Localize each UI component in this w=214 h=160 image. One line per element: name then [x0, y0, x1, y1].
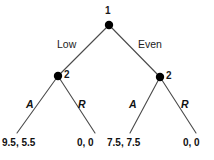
- tree-edges-layer: [0, 0, 214, 160]
- payoff-even-accept: 7.5, 7.5: [107, 138, 140, 148]
- edge-left-to-leaf-accept: [17, 76, 58, 133]
- payoff-low-reject: 0, 0: [77, 138, 94, 148]
- edge-label-left-reject: R: [78, 99, 86, 110]
- edge-right-to-leaf-reject: [160, 77, 196, 133]
- game-tree-diagram: 1 2 2 Low Even A R A R 9.5, 5.5 0, 0 7.5…: [0, 0, 214, 160]
- node-label-left-player: 2: [64, 70, 70, 80]
- edge-label-low: Low: [57, 39, 76, 50]
- edge-label-right-reject: R: [181, 99, 189, 110]
- edge-root-to-right: [109, 25, 160, 77]
- edge-label-right-accept: A: [129, 99, 137, 110]
- node-label-right-player: 2: [166, 71, 172, 81]
- edge-label-left-accept: A: [26, 99, 34, 110]
- node-right-player2: [156, 73, 164, 81]
- payoff-low-accept: 9.5, 5.5: [2, 138, 35, 148]
- payoff-even-reject: 0, 0: [183, 138, 200, 148]
- edge-left-to-leaf-reject: [58, 76, 95, 133]
- node-label-root-player: 1: [105, 6, 111, 16]
- edge-label-even: Even: [138, 39, 162, 50]
- node-left-player2: [54, 72, 62, 80]
- node-root-player1: [105, 21, 113, 29]
